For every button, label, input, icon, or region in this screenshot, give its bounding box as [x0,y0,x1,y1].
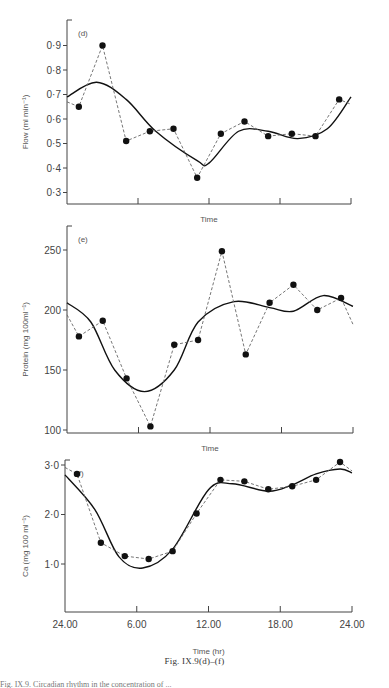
chart-panel-f: 1·02·03·024.006.0012.0018.0024.00Time (h… [21,459,365,656]
chart-panel-d: 0·30·40·50·60·70·80·9TimeFlow (ml min⁻¹)… [21,20,351,224]
figure-charts: 0·30·40·50·60·70·80·9TimeFlow (ml min⁻¹)… [0,0,389,688]
data-point [312,133,318,139]
x-axis-title: Time [200,215,218,224]
x-tick-label: 6.00 [127,619,147,630]
x-axis-title: Time (hr) [192,647,224,656]
observed-dashed-line [67,46,351,178]
y-tick-label: 0·3 [47,187,62,198]
data-point [241,118,247,124]
data-point [265,486,271,492]
data-point [169,548,175,554]
data-point [76,104,82,110]
data-point [123,138,129,144]
panel-label: (d) [78,29,88,38]
data-point [147,128,153,134]
x-tick-label: 18.00 [268,619,293,630]
y-axis-title: Flow (ml min⁻¹) [21,94,30,149]
data-point [99,42,105,48]
data-point [74,471,80,477]
data-point [243,351,249,357]
y-tick-label: 0·7 [47,89,62,100]
data-point [219,248,225,254]
x-tick-label: 24.00 [52,619,77,630]
data-point [314,307,320,313]
y-tick-label: 2·0 [45,509,60,520]
data-point [290,282,296,288]
data-point [98,540,104,546]
observed-dashed-line [67,251,353,426]
y-tick-label: 0·6 [47,114,62,125]
y-tick-label: 0·4 [47,163,62,174]
data-point [122,553,128,559]
data-point [194,175,200,181]
y-tick-label: 0·8 [47,65,62,76]
data-point [289,483,295,489]
data-point [313,477,319,483]
data-point [217,477,223,483]
y-tick-label: 3·0 [45,460,60,471]
panel-label: (e) [78,235,88,244]
y-tick-label: 200 [44,305,61,316]
x-tick-label: 12.00 [196,619,221,630]
data-point [338,295,344,301]
data-point [266,300,272,306]
fitted-curve [67,82,351,166]
data-point [171,342,177,348]
data-point [337,459,343,465]
y-tick-label: 150 [44,365,61,376]
x-axis-title: Time [201,444,219,453]
y-axis-title: Protein (mg 100ml⁻¹) [21,302,30,377]
data-point [123,375,129,381]
y-tick-label: 0·9 [47,40,62,51]
data-point [170,126,176,132]
data-point [76,333,82,339]
data-point [218,131,224,137]
fitted-curve [67,296,353,392]
x-tick-label: 24.00 [339,619,364,630]
axis-lines [67,20,351,204]
data-point [336,96,342,102]
y-axis-title: Ca (mg 100 ml⁻¹) [21,515,30,577]
chart-panel-e: 100150200250TimeProtein (mg 100ml⁻¹)(e) [21,226,353,453]
fitted-curve [65,469,352,568]
y-tick-label: 250 [44,245,61,256]
data-point [100,318,106,324]
data-point [146,556,152,562]
data-point [289,131,295,137]
data-point [265,133,271,139]
axis-lines [67,226,353,433]
data-point [195,337,201,343]
data-point [147,423,153,429]
figure-caption: Fig. IX.9(d)–(f) [0,656,389,666]
y-tick-label: 0·5 [47,138,62,149]
data-point [193,510,199,516]
data-point [241,478,247,484]
y-tick-label: 1·0 [45,559,60,570]
y-tick-label: 100 [44,425,61,436]
caption-cut-line: Fig. IX.9. Circadian rhythm in the conce… [0,680,389,688]
